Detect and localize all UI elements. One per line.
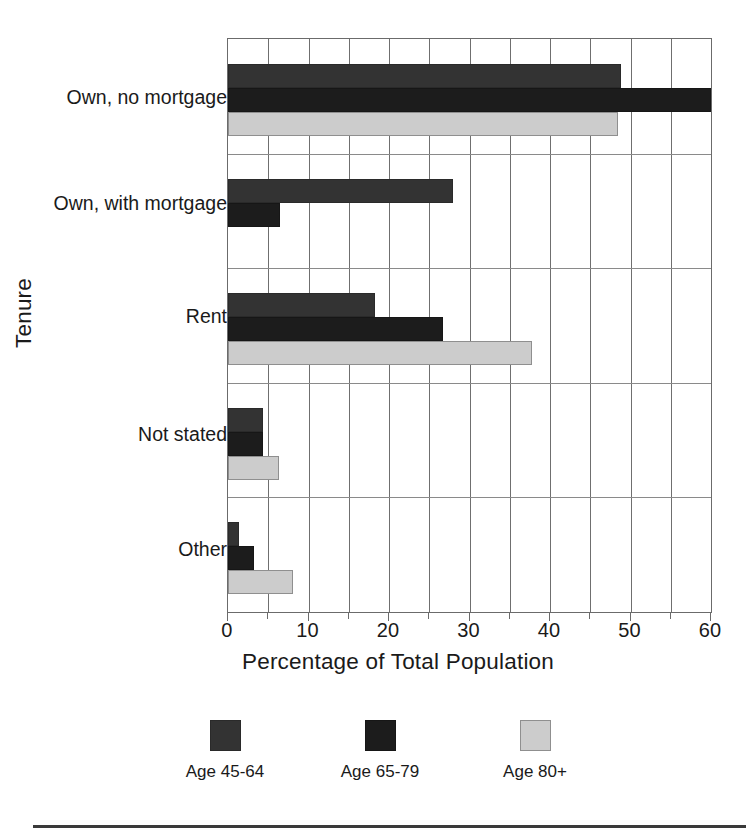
x-tick-label-30: 30 xyxy=(439,619,499,642)
bar-rent-age-80-plus[interactable] xyxy=(228,341,532,365)
legend-label-age-80-plus: Age 80+ xyxy=(460,762,610,782)
bar-rent-age-45-64[interactable] xyxy=(228,293,375,317)
chart-legend: Age 45-64 Age 65-79 Age 80+ xyxy=(150,720,610,790)
x-tick-label-50: 50 xyxy=(600,619,660,642)
plot-area xyxy=(227,38,712,613)
x-tick-25 xyxy=(428,612,429,619)
y-axis-label-not-stated: Not stated xyxy=(138,423,227,446)
bar-rent-age-65-79[interactable] xyxy=(228,317,443,341)
bar-not-stated-age-80-plus[interactable] xyxy=(228,456,279,480)
legend-label-age-65-79: Age 65-79 xyxy=(305,762,455,782)
x-tick-55 xyxy=(670,612,671,619)
x-tick-label-0: 0 xyxy=(197,619,257,642)
x-tick-5 xyxy=(267,612,268,619)
bar-chart-figure: Tenure Own, no mortgage Own, with mortga… xyxy=(0,0,746,838)
page-bottom-rule xyxy=(33,825,746,828)
bar-not-stated-age-65-79[interactable] xyxy=(228,432,263,456)
legend-item-age-45-64[interactable]: Age 45-64 xyxy=(150,720,300,782)
legend-item-age-80-plus[interactable]: Age 80+ xyxy=(460,720,610,782)
x-tick-15 xyxy=(348,612,349,619)
x-tick-label-40: 40 xyxy=(519,619,579,642)
y-axis-label-own-with-mortgage: Own, with mortgage xyxy=(54,192,227,215)
x-axis-title: Percentage of Total Population xyxy=(0,649,746,675)
y-axis-label-own-no-mortgage: Own, no mortgage xyxy=(67,86,227,109)
bar-own-no-mortgage-age-80-plus[interactable] xyxy=(228,112,618,136)
bar-own-with-mortgage-age-65-79[interactable] xyxy=(228,203,280,227)
bar-group-own-with-mortgage xyxy=(228,154,711,269)
y-axis-title: Tenure xyxy=(11,213,37,413)
legend-swatch-age-65-79 xyxy=(365,720,396,751)
bar-not-stated-age-45-64[interactable] xyxy=(228,408,263,432)
bar-own-with-mortgage-age-45-64[interactable] xyxy=(228,179,453,203)
x-tick-35 xyxy=(509,612,510,619)
bar-other-age-45-64[interactable] xyxy=(228,522,239,546)
x-tick-label-10: 10 xyxy=(278,619,338,642)
bar-own-no-mortgage-age-45-64[interactable] xyxy=(228,64,621,88)
legend-swatch-age-80-plus xyxy=(520,720,551,751)
x-tick-label-20: 20 xyxy=(358,619,418,642)
bar-own-no-mortgage-age-65-79[interactable] xyxy=(228,88,711,112)
bar-other-age-65-79[interactable] xyxy=(228,546,254,570)
x-tick-45 xyxy=(589,612,590,619)
bar-group-not-stated xyxy=(228,383,711,498)
bar-group-rent xyxy=(228,268,711,383)
bar-other-age-80-plus[interactable] xyxy=(228,570,293,594)
bar-group-own-no-mortgage xyxy=(228,39,711,154)
y-axis-label-rent: Rent xyxy=(186,305,227,328)
y-axis-label-other: Other xyxy=(178,538,227,561)
legend-label-age-45-64: Age 45-64 xyxy=(150,762,300,782)
legend-swatch-age-45-64 xyxy=(210,720,241,751)
legend-item-age-65-79[interactable]: Age 65-79 xyxy=(305,720,455,782)
x-tick-label-60: 60 xyxy=(680,619,740,642)
bar-group-other xyxy=(228,497,711,612)
